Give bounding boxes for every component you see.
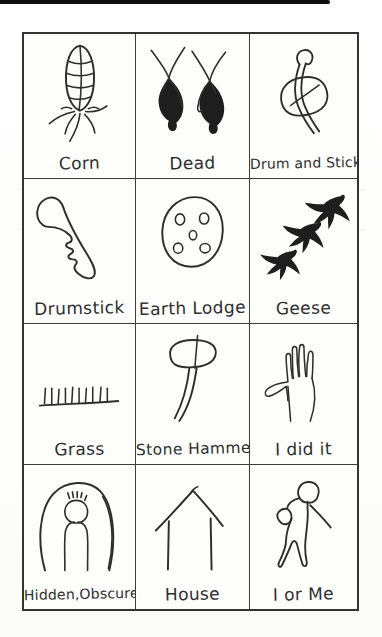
i-did-it-pictograph <box>254 330 354 432</box>
cell-label: I did it <box>250 436 357 465</box>
dead-pictograph <box>141 39 245 147</box>
geese-pictograph <box>254 185 354 291</box>
cell-label: Geese <box>250 295 357 324</box>
stone-hammer-art <box>136 324 249 437</box>
cell-label: Hidden,Obscure <box>24 581 135 609</box>
drum-and-stick-art <box>250 34 357 151</box>
cell-label: I or Me <box>250 581 357 609</box>
cell-corn: Corn <box>24 34 136 179</box>
hidden-obscure-pictograph <box>27 470 133 578</box>
house-art <box>136 465 249 582</box>
hidden-obscure-art <box>24 465 135 582</box>
i-or-me-pictograph <box>254 470 354 578</box>
cell-grass: Grass <box>24 324 136 465</box>
page-edge-scan-bar <box>0 0 330 4</box>
cell-label: Earth Lodge <box>136 295 249 324</box>
cell-house: House <box>136 465 250 609</box>
cell-drum-and-stick: Drum and Stick <box>250 34 357 179</box>
cell-label: House <box>136 581 249 609</box>
pictograph-grid: Corn Dead <box>22 32 359 611</box>
cell-label: Stone Hammer <box>136 436 249 465</box>
stone-hammer-pictograph <box>141 330 245 432</box>
cell-i-did-it: I did it <box>250 324 357 465</box>
cell-stone-hammer: Stone Hammer <box>136 324 250 465</box>
dead-art <box>136 34 249 151</box>
i-or-me-art <box>250 465 357 582</box>
cell-earth-lodge: Earth Lodge <box>136 179 250 324</box>
cell-geese: Geese <box>250 179 357 324</box>
geese-art <box>250 179 357 296</box>
cell-drumstick: Drumstick <box>24 179 136 324</box>
drumstick-art <box>24 179 135 296</box>
corn-pictograph <box>28 39 132 147</box>
scanned-page: Corn Dead <box>0 0 382 637</box>
i-did-it-art <box>250 324 357 437</box>
corn-art <box>24 34 135 151</box>
drumstick-pictograph <box>28 185 132 291</box>
grass-art <box>24 324 135 437</box>
drum-and-stick-pictograph <box>254 40 354 146</box>
cell-label: Drumstick <box>24 295 135 324</box>
cell-dead: Dead <box>136 34 250 179</box>
cell-label: Corn <box>24 150 135 179</box>
earth-lodge-art <box>136 179 249 296</box>
grass-pictograph <box>28 330 132 432</box>
house-pictograph <box>141 470 245 578</box>
cell-i-or-me: I or Me <box>250 465 357 609</box>
cell-hidden-obscure: Hidden,Obscure <box>24 465 136 609</box>
earth-lodge-pictograph <box>141 185 245 291</box>
cell-label: Grass <box>24 436 135 465</box>
cell-label: Drum and Stick <box>250 150 357 179</box>
cell-label: Dead <box>136 150 249 179</box>
